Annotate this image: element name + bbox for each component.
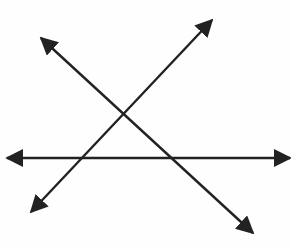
line-rising-double-arrow — [31, 20, 212, 212]
diagram-canvas — [0, 0, 291, 248]
line-falling-double-arrow — [41, 38, 253, 233]
lines-group — [7, 20, 290, 233]
three-intersecting-lines-diagram — [0, 0, 291, 248]
